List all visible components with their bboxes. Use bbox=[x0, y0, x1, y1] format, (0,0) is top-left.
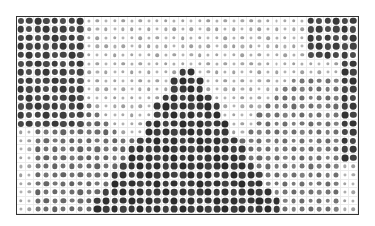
halftone-cell bbox=[170, 154, 179, 163]
halftone-cell bbox=[153, 94, 162, 103]
halftone-dot bbox=[87, 62, 90, 65]
halftone-dot bbox=[128, 154, 135, 161]
halftone-dot bbox=[258, 88, 261, 91]
halftone-dot bbox=[147, 96, 150, 99]
halftone-cell bbox=[43, 205, 52, 214]
halftone-cell bbox=[307, 34, 316, 43]
halftone-cell bbox=[119, 43, 128, 52]
halftone-cell bbox=[205, 17, 214, 26]
halftone-cell bbox=[332, 205, 341, 214]
halftone-dot bbox=[283, 113, 288, 118]
halftone-dot bbox=[35, 198, 40, 203]
halftone-cell bbox=[205, 180, 214, 189]
halftone-cell bbox=[188, 188, 197, 197]
halftone-cell bbox=[153, 120, 162, 129]
halftone-cell bbox=[324, 197, 333, 206]
halftone-cell bbox=[307, 51, 316, 60]
halftone-dot bbox=[230, 180, 237, 187]
halftone-dot bbox=[69, 86, 75, 92]
halftone-dot bbox=[171, 197, 178, 204]
halftone-dot bbox=[171, 86, 177, 92]
halftone-cell bbox=[196, 145, 205, 154]
halftone-cell bbox=[264, 137, 273, 146]
halftone-cell bbox=[102, 26, 111, 35]
halftone-cell bbox=[170, 103, 179, 112]
halftone-cell bbox=[324, 111, 333, 120]
halftone-cell bbox=[205, 188, 214, 197]
halftone-dot bbox=[300, 130, 305, 135]
halftone-cell bbox=[111, 128, 120, 137]
halftone-dot bbox=[308, 164, 313, 169]
halftone-dot bbox=[232, 79, 235, 82]
halftone-dot bbox=[162, 180, 169, 187]
halftone-dot bbox=[112, 147, 117, 152]
halftone-cell bbox=[298, 68, 307, 77]
halftone-dot bbox=[232, 28, 235, 31]
halftone-dot bbox=[207, 45, 210, 48]
halftone-cell bbox=[256, 180, 265, 189]
halftone-cell bbox=[34, 86, 43, 95]
halftone-cell bbox=[111, 180, 120, 189]
halftone-dot bbox=[241, 36, 244, 39]
halftone-cell bbox=[43, 103, 52, 112]
halftone-dot bbox=[43, 103, 49, 109]
halftone-cell bbox=[128, 111, 137, 120]
halftone-cell bbox=[179, 77, 188, 86]
halftone-cell bbox=[307, 86, 316, 95]
halftone-cell bbox=[239, 94, 248, 103]
halftone-dot bbox=[27, 139, 31, 143]
halftone-dot bbox=[256, 197, 263, 204]
halftone-cell bbox=[68, 111, 77, 120]
halftone-dot bbox=[325, 104, 330, 109]
halftone-cell bbox=[153, 51, 162, 60]
halftone-dot bbox=[104, 147, 109, 152]
halftone-dot bbox=[139, 54, 142, 57]
halftone-cell bbox=[239, 103, 248, 112]
halftone-dot bbox=[205, 112, 212, 119]
halftone-cell bbox=[324, 60, 333, 69]
halftone-dot bbox=[95, 138, 100, 143]
halftone-cell bbox=[77, 34, 86, 43]
halftone-dot bbox=[69, 26, 75, 32]
halftone-cell bbox=[222, 86, 231, 95]
halftone-cell bbox=[188, 154, 197, 163]
halftone-dot bbox=[189, 45, 193, 49]
halftone-dot bbox=[341, 137, 348, 144]
halftone-dot bbox=[350, 129, 357, 136]
halftone-cell bbox=[77, 60, 86, 69]
halftone-dot bbox=[104, 79, 107, 82]
halftone-dot bbox=[103, 138, 108, 143]
halftone-dot bbox=[156, 88, 159, 91]
halftone-cell bbox=[17, 34, 26, 43]
halftone-cell bbox=[281, 197, 290, 206]
halftone-dot bbox=[258, 28, 262, 32]
halftone-cell bbox=[290, 111, 299, 120]
halftone-cell bbox=[307, 154, 316, 163]
halftone-dot bbox=[275, 70, 278, 73]
halftone-cell bbox=[281, 180, 290, 189]
halftone-cell bbox=[290, 205, 299, 214]
halftone-cell bbox=[230, 171, 239, 180]
halftone-dot bbox=[147, 79, 150, 82]
halftone-dot bbox=[350, 52, 356, 58]
halftone-cell bbox=[307, 171, 316, 180]
halftone-cell bbox=[324, 68, 333, 77]
halftone-cell bbox=[102, 120, 111, 129]
halftone-dot bbox=[317, 104, 322, 109]
halftone-dot bbox=[69, 147, 74, 152]
halftone-dot bbox=[214, 129, 220, 135]
halftone-dot bbox=[145, 146, 151, 152]
halftone-dot bbox=[317, 147, 322, 152]
halftone-dot bbox=[172, 70, 176, 74]
halftone-cell bbox=[162, 26, 171, 35]
halftone-dot bbox=[181, 62, 184, 65]
halftone-cell bbox=[145, 163, 154, 172]
halftone-cell bbox=[349, 111, 358, 120]
halftone-dot bbox=[145, 137, 152, 144]
halftone-dot bbox=[317, 95, 322, 100]
halftone-dot bbox=[307, 43, 313, 49]
halftone-cell bbox=[213, 26, 222, 35]
halftone-dot bbox=[232, 113, 235, 116]
halftone-cell bbox=[247, 34, 256, 43]
halftone-cell bbox=[281, 68, 290, 77]
